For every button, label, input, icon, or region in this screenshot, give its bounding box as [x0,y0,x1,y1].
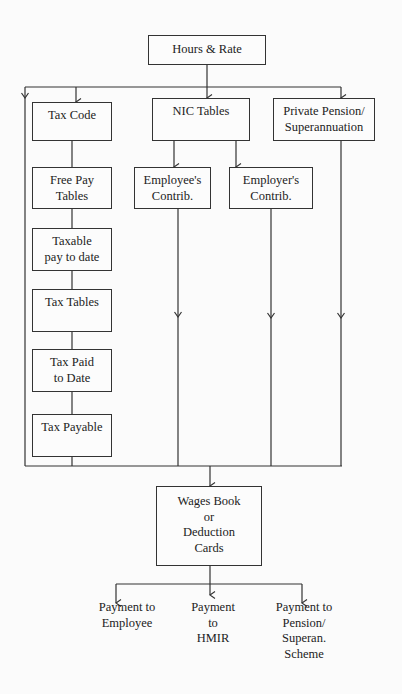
employer-contrib-label-2: Contrib. [230,189,312,205]
payment-hmir-label: Payment to HMIR [173,600,253,647]
private-pension-box: Private Pension/ Superannuation [273,98,375,141]
free-pay-tables-box: Free Pay Tables [32,167,112,209]
taxable-pay-label-1: Taxable [33,234,111,250]
taxable-pay-label-2: pay to date [33,250,111,266]
wages-book-label-2: or [157,510,261,526]
tax-payable-box: Tax Payable [32,414,112,457]
employee-contrib-label-2: Contrib. [135,189,210,205]
wages-book-label-4: Cards [157,541,261,557]
payment-employee-label: Payment to Employee [77,600,177,631]
payment-hmir-line-1: Payment [173,600,253,616]
nic-tables-label: NIC Tables [153,104,249,120]
free-pay-tables-label-1: Free Pay [33,173,111,189]
employer-contrib-label-1: Employer's [230,173,312,189]
wages-book-label-1: Wages Book [157,494,261,510]
taxable-pay-box: Taxable pay to date [32,228,112,271]
employee-contrib-label-1: Employee's [135,173,210,189]
payment-pension-line-1: Payment to [254,600,354,616]
payment-employee-line-2: Employee [77,616,177,632]
private-pension-label-1: Private Pension/ [274,104,374,120]
free-pay-tables-label-2: Tables [33,189,111,205]
tax-payable-label: Tax Payable [33,420,111,436]
payment-pension-label: Payment to Pension/ Superan. Scheme [254,600,354,662]
employee-contrib-box: Employee's Contrib. [134,167,211,209]
tax-code-box: Tax Code [32,102,112,141]
tax-paid-box: Tax Paid to Date [32,349,112,392]
payment-hmir-line-3: HMIR [173,631,253,647]
payment-pension-line-4: Scheme [254,647,354,663]
tax-tables-label: Tax Tables [33,295,111,311]
payment-pension-line-2: Pension/ [254,616,354,632]
tax-paid-label-2: to Date [33,371,111,387]
payment-employee-line-1: Payment to [77,600,177,616]
employer-contrib-box: Employer's Contrib. [229,167,313,209]
nic-tables-box: NIC Tables [152,98,250,141]
hours-rate-box: Hours & Rate [148,35,266,65]
payment-pension-line-3: Superan. [254,631,354,647]
private-pension-label-2: Superannuation [274,120,374,136]
tax-code-label: Tax Code [33,108,111,124]
tax-tables-box: Tax Tables [32,289,112,332]
wages-book-box: Wages Book or Deduction Cards [156,486,262,566]
wages-book-label-3: Deduction [157,525,261,541]
hours-rate-label: Hours & Rate [149,42,265,58]
tax-paid-label-1: Tax Paid [33,355,111,371]
payment-hmir-line-2: to [173,616,253,632]
